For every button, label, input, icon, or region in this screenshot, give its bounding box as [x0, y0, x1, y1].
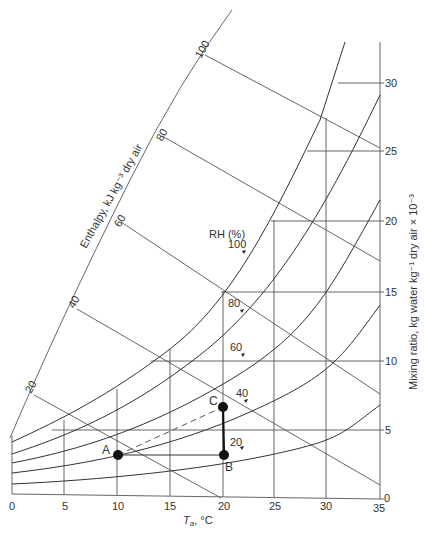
enthalpy-line-100 — [205, 55, 380, 148]
rh-curve-100 — [12, 42, 345, 442]
y-tick-25: 25 — [385, 145, 397, 157]
point-c-marker — [218, 402, 228, 412]
enthalpy-line-80 — [164, 137, 380, 261]
x-axis-label-unit: , °C — [194, 514, 213, 526]
x-tick-5: 5 — [62, 500, 68, 512]
rh-marker-40 — [244, 399, 248, 403]
y-tick-10: 10 — [385, 355, 397, 367]
rh-marker-80 — [240, 309, 244, 313]
y-tick-5: 5 — [385, 424, 391, 436]
enthalpy-line-60 — [121, 222, 380, 394]
point-b-label: B — [225, 460, 233, 474]
rh-label-80: 80 — [228, 297, 240, 309]
point-a-marker — [113, 450, 123, 460]
y-tick-30: 30 — [385, 77, 397, 89]
rh-label-20: 20 — [230, 436, 242, 448]
rh-curves — [12, 42, 380, 484]
y-tick-labels: 0 5 10 15 20 25 30 — [384, 77, 397, 504]
enthalpy-tick-labels: 20 40 60 80 100 — [22, 38, 212, 395]
rh-marker-100 — [242, 250, 246, 254]
x-tick-0: 0 — [9, 500, 15, 512]
y-tick-0: 0 — [384, 492, 390, 504]
rh-curve-60 — [12, 200, 380, 463]
y-axis-label: Mixing ratio, kg water kg⁻¹ dry air × 10… — [407, 194, 419, 390]
x-axis-label: Ta, °C — [183, 514, 213, 528]
rh-label-40: 40 — [236, 387, 248, 399]
rh-marker-60 — [241, 353, 245, 357]
point-b-marker — [219, 450, 229, 460]
enthalpy-tick-80: 80 — [153, 126, 170, 143]
x-tick-15: 15 — [164, 500, 176, 512]
y-tick-marks — [380, 83, 384, 499]
rh-curve-80 — [12, 95, 380, 454]
x-tick-10: 10 — [112, 500, 124, 512]
enthalpy-axis-label: Enthalpy, kJ kg⁻³ dry air — [77, 142, 144, 250]
enthalpy-line-40 — [77, 309, 380, 485]
x-axis — [12, 494, 380, 499]
y-tick-15: 15 — [385, 286, 397, 298]
rh-label-100: 100 — [228, 238, 246, 250]
gridlines — [10, 10, 380, 499]
rh-curve-20 — [12, 405, 380, 484]
enthalpy-line-20 — [34, 395, 221, 498]
rh-curve-40 — [12, 305, 380, 473]
point-c-label: C — [209, 394, 218, 408]
x-tick-25: 25 — [269, 500, 281, 512]
psychrometric-chart: RH (%) 100 80 60 40 20 A B C 0 5 10 15 2… — [0, 0, 424, 537]
x-tick-30: 30 — [320, 500, 332, 512]
enthalpy-tick-60: 60 — [111, 212, 128, 229]
x-tick-labels: 0 5 10 15 20 25 30 35 — [9, 500, 385, 514]
process-lines — [118, 407, 224, 455]
process-line-a-c — [118, 407, 223, 455]
y-tick-20: 20 — [385, 215, 397, 227]
process-line-b-c — [223, 407, 224, 455]
point-a-label: A — [102, 443, 110, 457]
x-tick-20: 20 — [218, 500, 230, 512]
enthalpy-tick-20: 20 — [22, 378, 39, 395]
rh-label-60: 60 — [230, 341, 242, 353]
